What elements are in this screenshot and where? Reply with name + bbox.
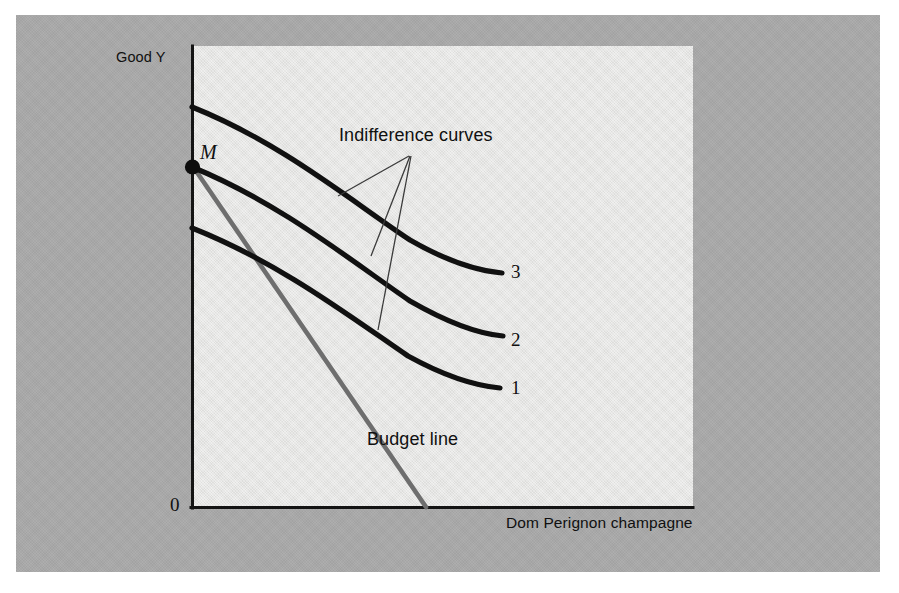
- y-axis-label: Good Y: [116, 50, 166, 65]
- x-axis-label: Dom Perignon champagne: [506, 515, 693, 531]
- leader-line-to-curve-3: [338, 156, 409, 196]
- leader-line-to-curve-1: [378, 156, 411, 330]
- budget-line-annotation: Budget line: [367, 430, 458, 448]
- curve-label-3: 3: [511, 262, 521, 281]
- figure-root: Good Y M 0 Dom Perignon champagne Indiff…: [0, 0, 899, 593]
- point-m-marker: [185, 159, 200, 174]
- chart-graphics: [0, 0, 899, 593]
- curve-label-2: 2: [511, 330, 521, 349]
- point-m-label: M: [200, 142, 217, 162]
- indifference-curve-1: [192, 228, 500, 388]
- budget-line: [194, 168, 426, 507]
- origin-label: 0: [170, 495, 180, 514]
- indifference-curves-annotation: Indifference curves: [339, 126, 493, 144]
- leader-line-to-curve-2: [371, 156, 410, 256]
- curve-label-1: 1: [511, 378, 521, 397]
